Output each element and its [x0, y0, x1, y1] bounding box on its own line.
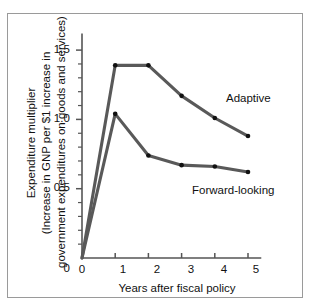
y-axis-title-line-2: (Increase in GNP per $1 increase in	[39, 18, 54, 268]
y-axis-title: Expenditure multiplier (Increase in GNP …	[24, 18, 70, 268]
data-point	[213, 116, 218, 121]
xtick-label-5: 5	[246, 263, 266, 275]
data-point	[246, 170, 251, 175]
data-point	[113, 112, 118, 117]
xtick-label-0: 0	[72, 263, 92, 275]
y-axis-title-line-3: government expenditures on goods and ser…	[54, 18, 69, 268]
series-label-forward-looking: Forward-looking	[192, 184, 274, 196]
xtick-label-1: 1	[113, 263, 133, 275]
xtick-label-2: 2	[147, 263, 167, 275]
x-axis-title: Years after fiscal policy	[82, 282, 272, 294]
data-point	[246, 134, 251, 139]
series-label-adaptive: Adaptive	[226, 92, 271, 104]
data-point	[146, 153, 151, 158]
xtick-label-3: 3	[181, 263, 201, 275]
data-point	[179, 94, 184, 99]
figure: 1.5 1.0 0.5 0 0 1 2 3 4 5 Years after fi…	[0, 0, 311, 306]
xtick-label-4: 4	[214, 263, 234, 275]
data-point	[213, 164, 218, 169]
data-point	[146, 63, 151, 68]
axes	[76, 33, 261, 258]
data-point	[179, 163, 184, 168]
data-point	[113, 63, 118, 68]
y-axis-title-line-1: Expenditure multiplier	[24, 18, 39, 268]
